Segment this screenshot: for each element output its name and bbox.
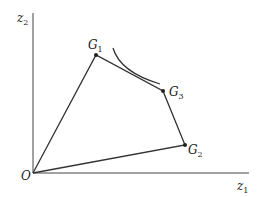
point-g2 [183,143,187,147]
y-axis-label: z2 [17,12,28,27]
label-g2: G2 [188,144,203,159]
polygon-edges [33,55,185,173]
x-axis-label: z1 [237,180,248,195]
origin-label: O [21,170,31,182]
point-g3 [161,89,165,93]
tangent-curve [113,48,160,84]
label-g3: G3 [169,86,184,101]
label-g1: G1 [88,39,103,54]
diagram-canvas [0,0,266,197]
